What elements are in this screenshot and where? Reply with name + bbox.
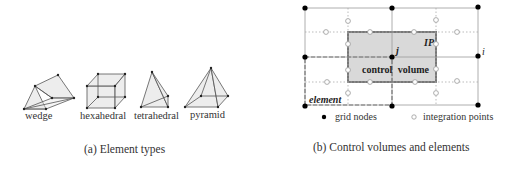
ip-label: IP [424,37,434,48]
control-volume-label: control volume [362,64,429,75]
grid-nodes-legend-label: grid nodes [335,111,377,122]
node-j-label: j [396,45,399,56]
panel-b-caption: (b) Control volumes and elements [313,141,470,153]
integration-points-legend-label: integration points [423,111,493,122]
element-label: element [309,94,341,105]
integration-point-legend-marker [412,115,416,119]
node-i-label: i [482,46,485,57]
grid-node-legend-marker [322,115,326,119]
